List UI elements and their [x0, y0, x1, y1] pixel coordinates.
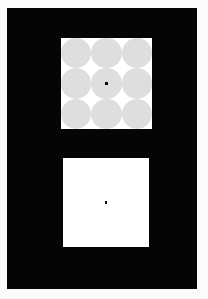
gray-disc: [61, 68, 92, 99]
disc-cell: [61, 99, 91, 129]
gray-disc: [122, 38, 153, 69]
disc-cell: [61, 68, 91, 98]
gray-disc: [91, 38, 122, 69]
gray-disc: [91, 99, 122, 130]
disc-cell: [61, 38, 91, 68]
adaptation-panel: [61, 38, 152, 129]
disc-cell: [91, 99, 121, 129]
stimulus-figure: [0, 0, 208, 299]
fixation-dot-icon: [105, 82, 107, 84]
disc-cell: [91, 38, 121, 68]
black-surround-field: [7, 8, 197, 289]
gray-disc: [61, 99, 92, 130]
disc-cell: [122, 68, 152, 98]
disc-cell: [122, 38, 152, 68]
fixation-dot-icon: [105, 201, 107, 203]
right-edge-highlight: [197, 8, 199, 289]
test-panel: [63, 158, 149, 247]
gray-disc: [61, 38, 92, 69]
disc-cell: [122, 99, 152, 129]
gray-disc: [122, 99, 153, 130]
gray-disc: [122, 68, 153, 99]
